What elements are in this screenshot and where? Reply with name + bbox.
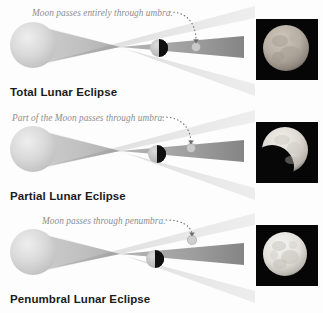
- caption-penumbral-lunar-eclipse: Penumbral Lunar Eclipse: [10, 293, 150, 305]
- moon-in-shadow: [146, 250, 164, 268]
- caption-total-lunar-eclipse: Total Lunar Eclipse: [10, 86, 117, 98]
- moon-in-shadow: [150, 39, 168, 57]
- partial-eclipse-moon-image: [256, 122, 318, 183]
- earth-sphere: [10, 126, 56, 172]
- earth-sphere: [10, 22, 56, 68]
- caption-partial-lunar-eclipse: Partial Lunar Eclipse: [10, 190, 126, 202]
- annotation-total: Moon passes entirely through umbra.: [32, 8, 173, 18]
- photo-partial-lunar-eclipse: [256, 122, 318, 183]
- annotation-partial: Part of the Moon passes through umbra.: [12, 113, 165, 123]
- moon-marker-in-umbra: [191, 42, 200, 51]
- photo-penumbral-lunar-eclipse: [256, 225, 318, 286]
- moon-marker-edge-of-umbra: [186, 143, 195, 152]
- lunar-eclipse-figure: Moon passes entirely through umbra. Tota…: [0, 0, 323, 313]
- moon-in-shadow: [148, 145, 166, 163]
- penumbral-eclipse-moon-image: [256, 225, 318, 286]
- annotation-penumbral: Moon passes through penumbra.: [42, 216, 166, 226]
- photo-total-lunar-eclipse: [256, 19, 318, 80]
- earth-sphere: [10, 229, 56, 275]
- total-eclipse-moon-image: [256, 19, 318, 80]
- moon-marker-in-penumbra: [187, 235, 196, 244]
